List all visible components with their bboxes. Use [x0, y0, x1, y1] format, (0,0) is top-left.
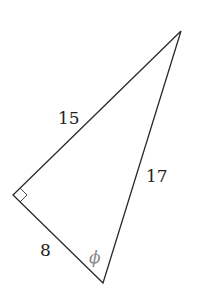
side-label-17: 17: [146, 166, 168, 186]
triangle-diagram: 15 17 8 ϕ: [0, 0, 212, 297]
right-angle-marker: [20, 188, 27, 202]
side-label-15: 15: [58, 108, 80, 128]
side-label-8: 8: [40, 240, 51, 260]
angle-label-phi: ϕ: [89, 247, 101, 267]
triangle-outline: [13, 31, 181, 283]
